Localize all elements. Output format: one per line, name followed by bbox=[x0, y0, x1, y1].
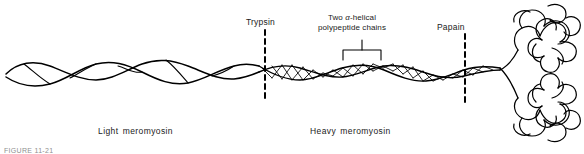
chains-text-post: -helical bbox=[350, 13, 376, 22]
trypsin-label: Trypsin bbox=[246, 17, 275, 27]
figure-myosin-molecule: Trypsin Papain Two α-helical polypeptide… bbox=[0, 0, 584, 154]
globular-head-lower bbox=[514, 74, 581, 142]
light-meromyosin-label: Light meromyosin bbox=[98, 126, 173, 136]
alpha-helical-chains-label: Two α-helical polypeptide chains bbox=[305, 13, 399, 32]
globular-head-upper bbox=[514, 4, 581, 72]
chains-text-line2: polypeptide chains bbox=[318, 23, 386, 32]
figure-caption: FIGURE 11-21 bbox=[4, 147, 53, 154]
myosin-diagram bbox=[0, 0, 584, 154]
neck-region bbox=[500, 50, 518, 98]
papain-label: Papain bbox=[437, 22, 465, 32]
chains-bracket bbox=[343, 40, 381, 60]
chains-text-pre: Two bbox=[328, 13, 345, 22]
heavy-meromyosin-label: Heavy meromyosin bbox=[310, 126, 391, 136]
